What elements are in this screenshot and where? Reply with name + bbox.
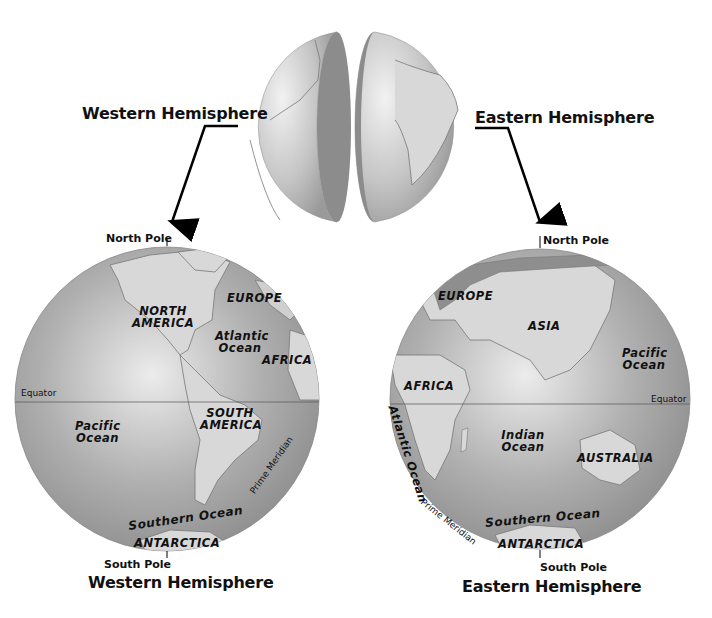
east-equator: Equator [651,394,686,404]
label-australia: AUSTRALIA [577,452,654,464]
west-arrow [172,126,238,222]
top-east-label: Eastern Hemisphere [475,108,654,127]
label-south-america: SOUTH AMERICA [200,407,260,431]
label-europe-west: EUROPE [227,292,282,304]
label-indian-ocean: Indian Ocean [498,429,548,453]
east-south-pole: South Pole [540,561,607,574]
west-equator: Equator [21,388,56,398]
east-caption: Eastern Hemisphere [462,577,641,596]
top-west-label: Western Hemisphere [82,104,268,123]
split-globe [250,32,458,222]
label-pacific-west: Pacific Ocean [75,420,120,444]
label-europe-east: EUROPE [438,290,493,302]
label-north-america: NORTH AMERICA [128,305,198,329]
label-africa-west: AFRICA [262,354,312,366]
west-north-pole: North Pole [106,232,172,245]
label-pacific-east: Pacific Ocean [622,347,666,371]
label-africa-east: AFRICA [404,380,454,392]
label-atlantic-west: Atlantic Ocean [215,330,265,354]
hemispheres-diagram [0,0,712,618]
label-antarctica-west: ANTARCTICA [134,537,220,549]
west-south-pole: South Pole [104,558,171,571]
label-antarctica-east: ANTARCTICA [498,538,584,550]
west-caption: Western Hemisphere [88,573,274,592]
label-asia: ASIA [528,320,560,332]
east-arrow [475,128,540,222]
east-north-pole: North Pole [543,234,609,247]
